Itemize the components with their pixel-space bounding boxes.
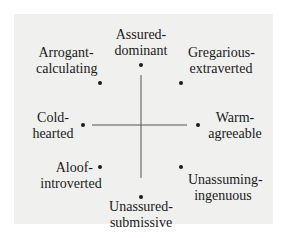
dot-cold bbox=[81, 123, 85, 127]
label-line: Assured- bbox=[111, 27, 171, 43]
label-line: Unassuming- bbox=[188, 172, 258, 188]
label-unassuming-ingenuous: Unassuming- ingenuous bbox=[188, 172, 258, 204]
label-line: ingenuous bbox=[188, 188, 258, 204]
dot-gregarious bbox=[179, 81, 183, 85]
label-warm-agreeable: Warm- agreeable bbox=[206, 110, 264, 142]
label-line: Gregarious- bbox=[188, 45, 254, 61]
label-line: calculating bbox=[36, 61, 96, 77]
label-line: agreeable bbox=[206, 126, 264, 142]
label-line: Arrogant- bbox=[36, 45, 96, 61]
label-line: hearted bbox=[30, 126, 76, 142]
dot-arrogant bbox=[98, 81, 102, 85]
dot-assured bbox=[139, 63, 143, 67]
dot-unassuming bbox=[179, 165, 183, 169]
label-line: extraverted bbox=[188, 61, 254, 77]
label-line: Aloof- bbox=[40, 160, 102, 176]
label-cold-hearted: Cold- hearted bbox=[30, 110, 76, 142]
label-line: introverted bbox=[40, 176, 102, 192]
label-gregarious-extraverted: Gregarious- extraverted bbox=[188, 45, 254, 77]
label-unassured-submissive: Unassured- submissive bbox=[108, 199, 174, 231]
label-aloof-introverted: Aloof- introverted bbox=[40, 160, 102, 192]
label-arrogant-calculating: Arrogant- calculating bbox=[36, 45, 96, 77]
label-line: Cold- bbox=[30, 110, 76, 126]
label-assured-dominant: Assured- dominant bbox=[111, 27, 171, 59]
label-line: Warm- bbox=[206, 110, 264, 126]
label-line: Unassured- bbox=[108, 199, 174, 215]
label-line: submissive bbox=[108, 215, 174, 231]
label-line: dominant bbox=[111, 43, 171, 59]
dot-warm bbox=[196, 123, 200, 127]
